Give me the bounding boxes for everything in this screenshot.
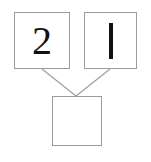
number-bond-diagram: 2	[0, 0, 151, 162]
part-value-right	[109, 23, 113, 59]
whole-box-answer[interactable]	[52, 96, 102, 146]
connector-line-right	[76, 69, 110, 96]
part-value-left: 2	[32, 21, 52, 61]
part-box-left[interactable]: 2	[14, 12, 70, 69]
part-box-right[interactable]	[84, 12, 137, 69]
connector-line-left	[42, 69, 76, 96]
